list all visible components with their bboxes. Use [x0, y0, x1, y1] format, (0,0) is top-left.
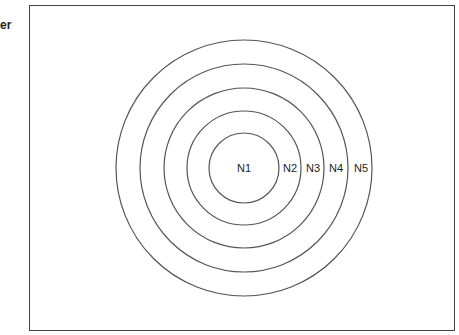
concentric-circles-diagram: N1N2N3N4N5 — [0, 0, 459, 335]
label-n4: N4 — [329, 162, 343, 174]
label-n2: N2 — [283, 162, 297, 174]
label-n3: N3 — [306, 162, 320, 174]
label-n5: N5 — [354, 162, 368, 174]
label-n1: N1 — [237, 162, 251, 174]
